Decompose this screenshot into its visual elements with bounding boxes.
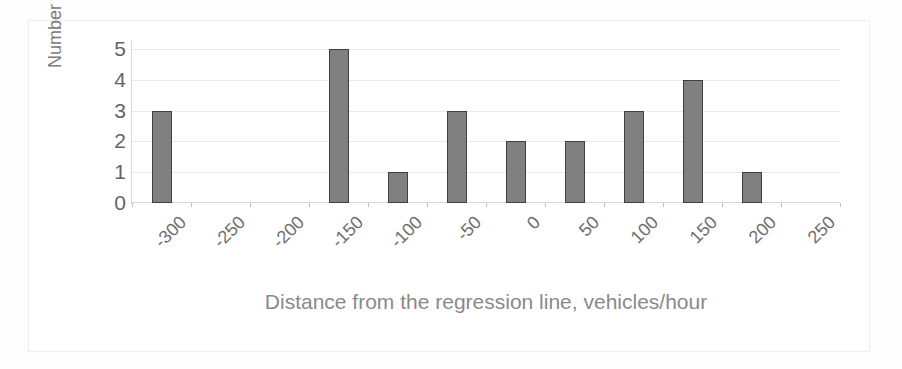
x-tick-mark [840, 203, 841, 207]
x-tick-label: 250 [804, 212, 839, 247]
gridline [132, 49, 840, 50]
x-tick-mark [663, 203, 664, 207]
gridline [132, 80, 840, 81]
x-tick-label: -250 [210, 212, 250, 252]
x-tick-label: -200 [269, 212, 309, 252]
y-axis-tick-labels: 543210 [96, 30, 126, 220]
x-tick-mark [722, 203, 723, 207]
x-tick-mark [368, 203, 369, 207]
y-axis-title: Number of cases [42, 0, 68, 54]
x-tick-label: -300 [151, 212, 191, 252]
bar[interactable] [624, 111, 644, 203]
x-tick-mark [486, 203, 487, 207]
gridline [132, 141, 840, 142]
x-tick-label: -50 [453, 212, 486, 245]
bar[interactable] [565, 141, 585, 203]
x-tick-label: 50 [575, 212, 603, 240]
x-tick-label: 150 [686, 212, 721, 247]
x-tick-label: 100 [627, 212, 662, 247]
bar[interactable] [506, 141, 526, 203]
bar[interactable] [152, 111, 172, 203]
gridline [132, 172, 840, 173]
bar[interactable] [329, 49, 349, 203]
x-tick-mark [781, 203, 782, 207]
x-axis-tick-labels: -300-250-200-150-100-50050100150200250 [132, 208, 840, 278]
y-tick-label: 2 [114, 130, 126, 151]
gridline [132, 111, 840, 112]
x-tick-label: 0 [523, 212, 544, 233]
bar[interactable] [388, 172, 408, 203]
y-tick-label: 0 [114, 192, 126, 213]
x-axis-title: Distance from the regression line, vehic… [132, 288, 840, 316]
y-tick-label: 3 [114, 100, 126, 121]
bar[interactable] [742, 172, 762, 203]
x-tick-mark [545, 203, 546, 207]
x-tick-mark [309, 203, 310, 207]
y-axis-title-label: Number of cases [42, 0, 68, 68]
x-tick-mark [604, 203, 605, 207]
x-tick-mark [191, 203, 192, 207]
x-tick-mark [132, 203, 133, 207]
x-tick-label: -100 [387, 212, 427, 252]
x-tick-label: -150 [328, 212, 368, 252]
bar[interactable] [447, 111, 467, 203]
bar[interactable] [683, 80, 703, 203]
plot-area [132, 49, 840, 203]
x-tick-mark [250, 203, 251, 207]
y-tick-label: 4 [114, 69, 126, 90]
scanned-page-background: Number of cases 543210 -300-250-200-150-… [0, 0, 902, 369]
y-tick-label: 5 [114, 38, 126, 59]
x-tick-label: 200 [745, 212, 780, 247]
y-tick-label: 1 [114, 161, 126, 182]
x-tick-mark [427, 203, 428, 207]
